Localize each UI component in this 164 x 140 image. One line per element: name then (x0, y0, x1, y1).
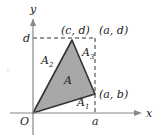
y-axis-arrow-icon (30, 18, 36, 26)
triangle-area-diagram: y x O d a (c, d) (a, d) (a, b) A A2 A3 A… (0, 0, 164, 140)
x-tick-a: a (92, 115, 99, 128)
y-tick-d: d (23, 32, 30, 45)
triangle-area-label: A (63, 74, 72, 87)
a2-label: A2 (40, 54, 54, 69)
point-a-b-label: (a, b) (99, 88, 128, 101)
point-a-d-label: (a, d) (99, 24, 128, 37)
origin-label: O (20, 115, 29, 128)
a1-label: A1 (76, 96, 89, 111)
y-axis-label: y (29, 3, 37, 16)
a3-label: A3 (81, 46, 95, 61)
stray-dot (7, 69, 8, 70)
x-axis-arrow-icon (134, 110, 142, 116)
point-c-d-label: (c, d) (61, 24, 90, 37)
x-axis-label: x (146, 107, 153, 120)
